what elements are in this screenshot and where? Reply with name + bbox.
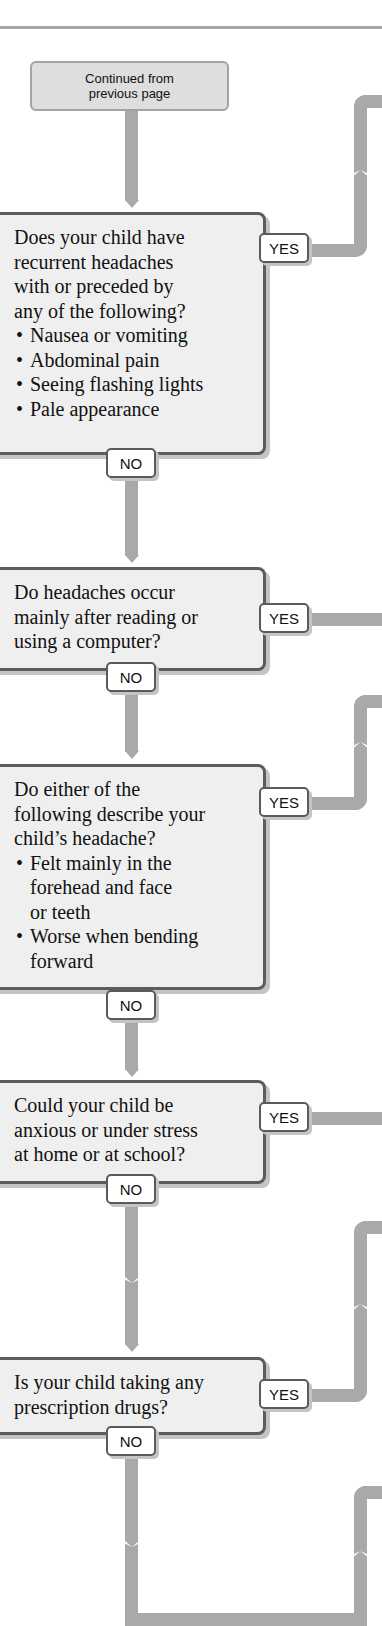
symptom-item: Nausea or vomiting [14,323,253,348]
yes-connector [354,695,382,708]
yes-connector [354,695,367,810]
question-text: Does your child have recurrent headaches… [14,225,253,323]
question-box-1: Does your child have recurrent headaches… [0,212,266,455]
question-box-5: Is your child taking any prescription dr… [0,1357,266,1435]
no-tag[interactable]: NO [106,662,156,692]
question-text: Is your child taking any prescription dr… [14,1370,253,1419]
connector-q1-to-q2 [125,476,138,556]
question-text: Do headaches occur mainly after reading … [14,580,253,654]
yes-tag[interactable]: YES [259,233,309,263]
yes-connector [354,1221,382,1234]
no-tag[interactable]: NO [106,1426,156,1456]
yes-connector [354,95,382,108]
symptom-item: Abdominal pain [14,348,253,373]
connector-q4-to-q5 [125,1202,138,1345]
yes-connector [305,1112,382,1125]
yes-connector [354,1221,367,1402]
no-connector-loop [354,1486,382,1499]
yes-tag[interactable]: YES [259,1102,309,1132]
connector-start-to-q1 [125,111,138,201]
yes-tag[interactable]: YES [259,787,309,817]
no-tag[interactable]: NO [106,448,156,478]
no-tag[interactable]: NO [106,990,156,1020]
symptom-item: Seeing flashing lights [14,372,253,397]
no-tag[interactable]: NO [106,1174,156,1204]
question-text: Do either of the following describe your… [14,777,253,851]
question-box-3: Do either of the following describe your… [0,764,266,990]
arrow-down-icon [125,751,139,759]
question-box-4: Could your child be anxious or under str… [0,1080,266,1184]
arrow-down-icon [125,555,139,563]
symptom-item: Worse when bending forward [14,924,253,973]
arrow-down-icon [125,1069,139,1077]
no-connector-loop [125,1613,367,1626]
page-divider [0,26,382,29]
connector-q3-to-q4 [125,1018,138,1070]
continued-from-previous-page-box: Continued from previous page [30,61,229,111]
symptom-item: Felt mainly in the forehead and face or … [14,851,253,925]
symptom-list: Felt mainly in the forehead and face or … [14,851,253,974]
no-connector-loop [354,1486,367,1626]
yes-tag[interactable]: YES [259,1379,309,1409]
continued-label: Continued from previous page [85,71,174,101]
question-text: Could your child be anxious or under str… [14,1093,253,1167]
arrow-down-icon [125,200,139,208]
no-connector-loop [125,1454,138,1626]
connector-q2-to-q3 [125,690,138,752]
yes-connector [354,95,367,257]
yes-connector [305,613,382,626]
arrow-down-icon [125,1344,139,1352]
yes-tag[interactable]: YES [259,603,309,633]
symptom-list: Nausea or vomiting Abdominal pain Seeing… [14,323,253,421]
symptom-item: Pale appearance [14,397,253,422]
question-box-2: Do headaches occur mainly after reading … [0,567,266,671]
